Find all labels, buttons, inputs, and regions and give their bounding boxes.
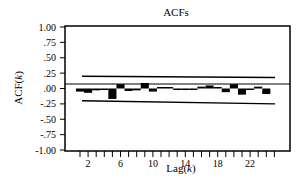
upper-confidence-bound <box>82 76 275 77</box>
acf-bar <box>246 89 254 91</box>
acf-bar <box>230 84 238 88</box>
acf-bar <box>206 85 214 88</box>
y-tick-label: -.25 <box>40 98 56 109</box>
chart-title: ACFs <box>163 6 189 18</box>
acf-bar <box>116 84 124 88</box>
y-tick-label: .00 <box>44 83 57 94</box>
y-tick-label: .50 <box>44 52 57 63</box>
y-tick-label: 1.00 <box>39 22 57 33</box>
acf-bar <box>76 89 84 92</box>
y-axis-label: ACF(k) <box>12 71 25 105</box>
acf-bar <box>173 89 181 91</box>
y-tick-label: .25 <box>44 68 57 79</box>
acf-bar <box>238 89 246 95</box>
acf-bar <box>84 89 92 93</box>
acf-bar <box>222 89 230 93</box>
acf-bar <box>165 87 173 89</box>
acf-bar <box>254 87 262 89</box>
acf-bar <box>92 89 100 91</box>
acf-bar <box>189 89 197 91</box>
y-axis: 1.00.75.50.25.00-.25-.50-.75-1.00 <box>35 22 65 156</box>
lower-confidence-bound <box>82 101 275 104</box>
acf-bar <box>181 89 189 91</box>
x-tick-label: 10 <box>148 158 158 169</box>
acf-bar <box>157 87 165 89</box>
acf-bars <box>76 83 270 99</box>
acf-bar <box>149 89 157 92</box>
y-tick-label: .75 <box>44 37 57 48</box>
acf-bar <box>197 87 205 89</box>
y-tick-label: -.75 <box>40 129 56 140</box>
y-tick-label: -.50 <box>40 114 56 125</box>
acf-bar <box>108 89 116 99</box>
x-axis-label: Lag(k) <box>166 162 196 175</box>
acf-chart: ACFs 1.00.75.50.25.00-.25-.50-.75-1.00 2… <box>0 0 308 183</box>
x-tick-label: 22 <box>245 158 255 169</box>
acf-bar <box>100 89 108 91</box>
acf-bar <box>141 83 149 89</box>
acf-bar <box>133 89 141 91</box>
acf-bar <box>214 87 222 89</box>
x-tick-label: 2 <box>86 158 91 169</box>
x-tick-label: 18 <box>213 158 223 169</box>
x-tick-label: 6 <box>118 158 123 169</box>
acf-bar <box>262 89 270 95</box>
y-tick-label: -1.00 <box>35 145 56 156</box>
acf-bar <box>125 89 133 91</box>
